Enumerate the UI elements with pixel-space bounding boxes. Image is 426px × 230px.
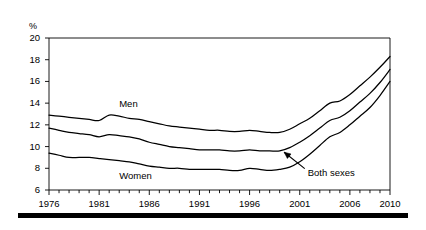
x-axis-tick-label: 1996 (230, 198, 270, 209)
x-axis-tick-label: 2006 (330, 198, 370, 209)
y-axis-tick-label: 14 (18, 97, 40, 108)
x-axis-tick-label: 1991 (179, 198, 219, 209)
y-axis-tick-label: 20 (18, 32, 40, 43)
series-line-men (49, 56, 390, 132)
x-axis-tick-label: 1976 (29, 198, 69, 209)
series-label-both-sexes: Both sexes (308, 167, 355, 178)
y-axis-tick-label: 16 (18, 75, 40, 86)
series-line-both-sexes (49, 69, 390, 151)
series-line-women (49, 81, 390, 170)
x-axis-tick-label: 2010 (370, 198, 410, 209)
y-axis-tick-label: 10 (18, 141, 40, 152)
bottom-rule-divider (18, 213, 408, 218)
series-label-women: Women (119, 170, 152, 181)
y-axis-tick-label: 8 (18, 162, 40, 173)
y-axis-tick-label: 6 (18, 184, 40, 195)
line-chart-canvas (0, 0, 426, 230)
y-axis-tick-label: 18 (18, 54, 40, 65)
x-axis-tick-label: 1986 (129, 198, 169, 209)
x-axis-tick-label: 2001 (280, 198, 320, 209)
x-axis-tick-label: 1981 (79, 198, 119, 209)
y-axis-unit-label: % (29, 21, 37, 31)
y-axis-tick-label: 12 (18, 119, 40, 130)
series-label-men: Men (119, 98, 137, 109)
chart-root: % 68101214161820 19761981198619911996200… (0, 0, 426, 230)
